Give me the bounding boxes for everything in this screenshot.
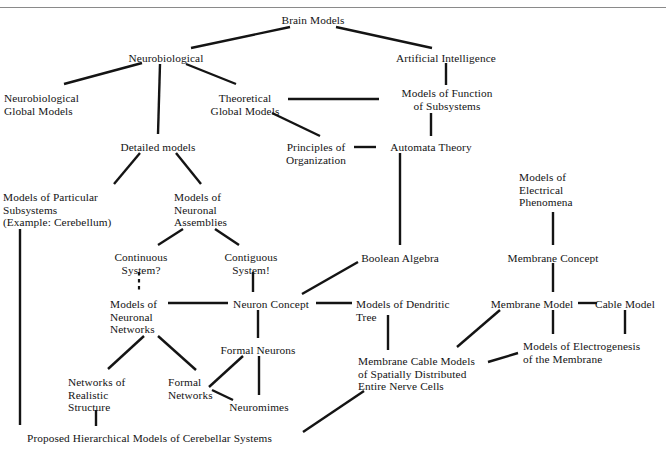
node-label-line: (Example: Cerebellum) <box>3 216 111 229</box>
node-label-line: Continuous <box>114 251 167 264</box>
node-automata-theory[interactable]: Automata Theory <box>390 141 471 154</box>
node-membrane-concept[interactable]: Membrane Concept <box>507 252 598 265</box>
node-label-line: Realistic <box>68 389 125 402</box>
node-theoretical-global-models[interactable]: TheoreticalGlobal Models <box>211 92 280 117</box>
node-label-line: of Spatially Distributed <box>358 368 475 381</box>
node-label-line: Brain Models <box>281 14 344 27</box>
edge-models-of-neuronal-networks--formal-networks <box>158 336 196 370</box>
node-membrane-cable-models[interactable]: Membrane Cable Modelsof Spatially Distri… <box>358 355 475 393</box>
node-detailed-models[interactable]: Detailed models <box>120 141 195 154</box>
node-label-line: of Subsystems <box>402 100 493 113</box>
node-label-line: Electrical <box>519 184 573 197</box>
edge-formal-neurons--formal-networks <box>209 356 243 387</box>
node-boolean-algebra[interactable]: Boolean Algebra <box>361 252 439 265</box>
edge-membrane-cable--proposed <box>303 391 364 432</box>
node-models-of-electrical-phenomena[interactable]: Models ofElectricalPhenomena <box>519 171 573 209</box>
node-label-line: Detailed models <box>120 141 195 154</box>
node-models-of-function-of-subsystems[interactable]: Models of Functionof Subsystems <box>402 87 493 112</box>
node-label-line: Networks <box>168 389 213 402</box>
node-principles-of-organization[interactable]: Principles ofOrganization <box>286 141 346 166</box>
node-label-line: Principles of <box>286 141 346 154</box>
node-models-of-neuronal-networks[interactable]: Models ofNeuronalNetworks <box>110 298 157 336</box>
node-label-line: Membrane Model <box>491 298 574 311</box>
node-label-line: Formal Neurons <box>220 344 295 357</box>
node-artificial-intelligence[interactable]: Artificial Intelligence <box>396 52 496 65</box>
node-neuron-concept[interactable]: Neuron Concept <box>233 298 309 311</box>
edge-brain-models--neurobiological <box>191 27 290 48</box>
node-label-line: Artificial Intelligence <box>396 52 496 65</box>
node-label-line: Theoretical <box>211 92 280 105</box>
edge-neurobiological--theoretical-global <box>186 64 236 84</box>
node-models-of-electrogenesis[interactable]: Models of Electrogenesisof the Membrane <box>523 340 640 365</box>
node-formal-neurons[interactable]: Formal Neurons <box>220 344 295 357</box>
node-label-line: Organization <box>286 154 346 167</box>
node-membrane-model[interactable]: Membrane Model <box>491 298 574 311</box>
node-continuous-system[interactable]: ContinuousSystem? <box>114 251 167 276</box>
node-label-line: Boolean Algebra <box>361 252 439 265</box>
header-rule <box>0 7 666 8</box>
edge-formal-networks--neuromimes <box>212 390 233 400</box>
edge-neuron-concept--boolean-algebra <box>302 262 358 294</box>
node-label-line: of the Membrane <box>523 353 640 366</box>
node-label-line: Global Models <box>4 105 79 118</box>
node-label-line: Neuromimes <box>229 401 288 414</box>
node-label-line: Contiguous <box>224 251 277 264</box>
node-proposed-hierarchical-models[interactable]: Proposed Hierarchical Models of Cerebell… <box>27 432 272 445</box>
node-label-line: Neuronal <box>110 311 157 324</box>
node-label-line: Assemblies <box>174 216 227 229</box>
node-label-line: Neuronal <box>174 204 227 217</box>
node-models-of-neuronal-assemblies[interactable]: Models ofNeuronalAssemblies <box>174 191 227 229</box>
edge-membrane-model--membrane-cable <box>457 310 500 347</box>
edge-models-of-electrogenesis--membrane-cable <box>488 353 518 362</box>
node-label-line: Models of Dendritic <box>356 298 450 311</box>
node-label-line: Models of <box>110 298 157 311</box>
edge-neurobiological--neurobiological-global <box>64 63 142 84</box>
node-label-line: Networks of <box>68 376 125 389</box>
node-models-of-dendritic-tree[interactable]: Models of DendriticTree <box>356 298 450 323</box>
node-label-line: Models of <box>174 191 227 204</box>
edge-detailed-models--models-of-neuronal-assemblies <box>176 153 201 184</box>
node-label-line: Neuron Concept <box>233 298 309 311</box>
node-label-line: Models of <box>519 171 573 184</box>
edge-models-of-neuronal-assemblies--contiguous <box>215 229 239 245</box>
node-label-line: Neurobiological <box>4 92 79 105</box>
node-label-line: Subsystems <box>3 204 111 217</box>
node-label-line: System? <box>114 264 167 277</box>
node-label-line: Neurobiological <box>129 52 204 65</box>
node-formal-networks[interactable]: FormalNetworks <box>168 376 213 401</box>
node-cable-model[interactable]: Cable Model <box>595 298 655 311</box>
node-label-line: Models of Electrogenesis <box>523 340 640 353</box>
node-label-line: Formal <box>168 376 213 389</box>
node-neurobiological-global-models[interactable]: NeurobiologicalGlobal Models <box>4 92 79 117</box>
edge-models-of-neuronal-networks--networks-of-realistic <box>108 336 144 369</box>
node-label-line: System! <box>224 264 277 277</box>
node-label-line: Models of Particular <box>3 191 111 204</box>
edge-brain-models--artificial-intelligence <box>336 27 432 48</box>
node-label-line: Membrane Concept <box>507 252 598 265</box>
node-label-line: Global Models <box>211 105 280 118</box>
node-label-line: Networks <box>110 323 157 336</box>
node-networks-of-realistic-structure[interactable]: Networks ofRealisticStructure <box>68 376 125 414</box>
node-neuromimes[interactable]: Neuromimes <box>229 401 288 414</box>
edge-detailed-models--models-of-particular <box>114 153 140 184</box>
node-label-line: Cable Model <box>595 298 655 311</box>
node-models-of-particular-subsystems[interactable]: Models of ParticularSubsystems(Example: … <box>3 191 111 229</box>
node-brain-models[interactable]: Brain Models <box>281 14 344 27</box>
node-label-line: Entire Nerve Cells <box>358 380 475 393</box>
node-label-line: Tree <box>356 311 450 324</box>
node-label-line: Structure <box>68 401 125 414</box>
node-label-line: Membrane Cable Models <box>358 355 475 368</box>
node-label-line: Automata Theory <box>390 141 471 154</box>
node-label-line: Models of Function <box>402 87 493 100</box>
node-contiguous-system[interactable]: ContiguousSystem! <box>224 251 277 276</box>
node-label-line: Phenomena <box>519 196 573 209</box>
node-label-line: Proposed Hierarchical Models of Cerebell… <box>27 432 272 445</box>
diagram-canvas: Brain ModelsNeurobiologicalArtificial In… <box>0 0 666 452</box>
edge-neurobiological--detailed-models <box>158 64 160 134</box>
node-neurobiological[interactable]: Neurobiological <box>129 52 204 65</box>
edge-models-of-neuronal-assemblies--continuous <box>158 229 183 245</box>
